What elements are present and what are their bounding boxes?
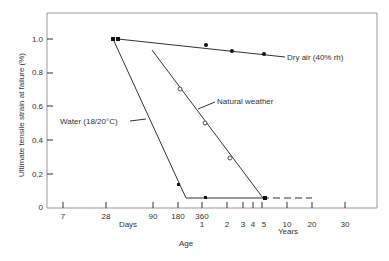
dry-air-label: Dry air (40% rh) xyxy=(287,53,344,62)
x-axis-label: Age xyxy=(179,239,194,248)
xtick: 28 xyxy=(102,212,111,221)
xtick: 7 xyxy=(61,212,66,221)
ytick: 0.2 xyxy=(32,170,44,179)
x-ticks xyxy=(63,202,345,208)
dry-air-line xyxy=(118,39,285,57)
plot-frame xyxy=(47,13,377,208)
ytick: 0.6 xyxy=(32,102,44,111)
ytick: 0.8 xyxy=(32,68,44,77)
days-label: Days xyxy=(119,220,137,229)
ytick: 0 xyxy=(39,203,44,212)
ytick: 0.4 xyxy=(32,136,44,145)
xtick: 3 xyxy=(241,220,246,229)
ytick: 1.0 xyxy=(32,35,44,44)
xtick: 1 xyxy=(200,220,205,229)
y-axis-label: Ultimate tensile strain at failure (%) xyxy=(17,53,26,177)
xtick: 90 xyxy=(149,212,158,221)
natural-weather-line xyxy=(152,50,263,198)
xtick: 30 xyxy=(341,220,350,229)
water-line xyxy=(113,39,262,198)
natural-weather-label: Natural weather xyxy=(217,97,274,106)
years-label: Years xyxy=(278,227,298,236)
xtick: 2 xyxy=(225,220,230,229)
water-label: Water (18/20°C) xyxy=(60,117,118,126)
xtick: 4 xyxy=(251,220,256,229)
xtick: 180 xyxy=(171,212,185,221)
xtick: 20 xyxy=(308,220,317,229)
chart: 1.0 0.8 0.6 0.4 0.2 0 7 28 90 180 360 1 … xyxy=(0,0,389,261)
xtick: 5 xyxy=(262,220,267,229)
